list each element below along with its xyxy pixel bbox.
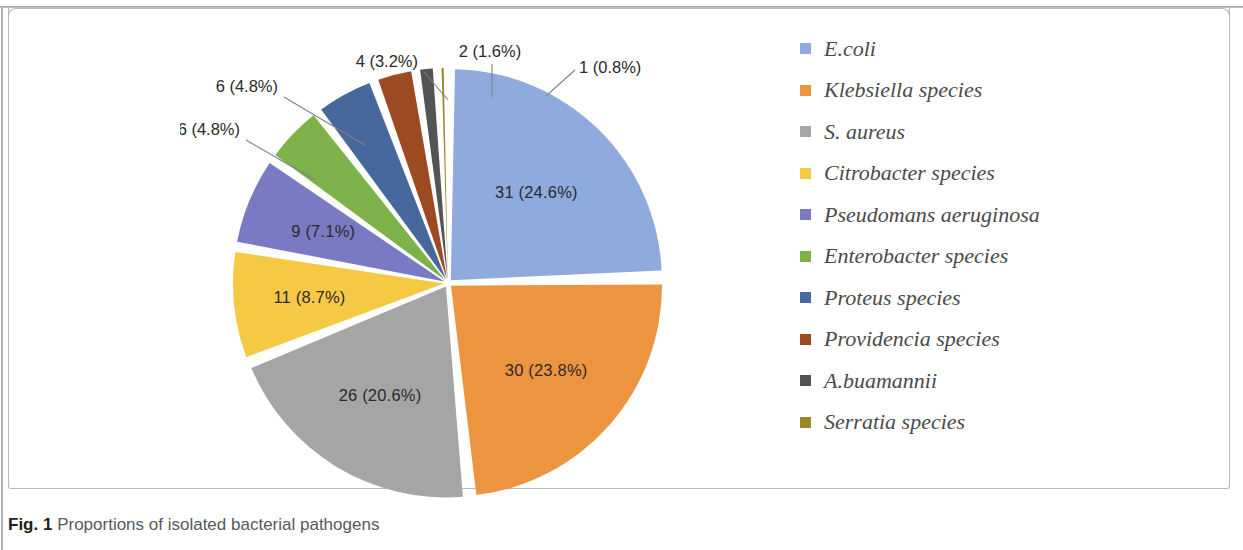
legend-item-label: S. aureus: [824, 121, 905, 143]
pie-callout-label: 1 (0.8%): [579, 58, 641, 76]
legend-item: E.coli: [800, 28, 1200, 70]
pie-slices: [233, 68, 662, 497]
legend-swatch-icon: [800, 168, 811, 179]
figure-number: Fig. 1: [8, 515, 52, 534]
legend-item: Providencia species: [800, 319, 1200, 361]
figure-caption-text: Proportions of isolated bacterial pathog…: [52, 515, 379, 534]
legend-item: Enterobacter species: [800, 236, 1200, 278]
legend-item: S. aureus: [800, 111, 1200, 153]
legend-swatch-icon: [800, 209, 811, 220]
legend-item: Pseudomans aeruginosa: [800, 194, 1200, 236]
legend-item: Citrobacter species: [800, 153, 1200, 195]
pie-callout-label: 4 (3.2%): [356, 52, 418, 70]
legend-swatch-icon: [800, 85, 811, 96]
legend-item-label: Serratia species: [824, 411, 965, 433]
legend-item-label: Enterobacter species: [824, 245, 1008, 267]
legend-item: A.buamannii: [800, 360, 1200, 402]
figure-caption: Fig. 1 Proportions of isolated bacterial…: [8, 515, 379, 535]
legend-item-label: E.coli: [824, 38, 876, 60]
legend-swatch-icon: [800, 375, 811, 386]
pie-slice-label: 11 (8.7%): [273, 288, 345, 306]
legend-swatch-icon: [800, 292, 811, 303]
pie-slice-label: 26 (20.6%): [339, 386, 422, 404]
legend-swatch-icon: [800, 43, 811, 54]
pie-callout-label: 6 (4.8%): [180, 120, 240, 138]
legend-item-label: Klebsiella species: [824, 79, 982, 101]
pie-label-leader-line: [546, 70, 575, 96]
pie-slice: [451, 69, 662, 280]
legend-item-label: Providencia species: [824, 328, 1000, 350]
legend-item-label: Pseudomans aeruginosa: [824, 204, 1040, 226]
pie-slice-label: 30 (23.8%): [505, 361, 588, 379]
chart-legend: E.coliKlebsiella speciesS. aureusCitroba…: [800, 28, 1200, 443]
figure-frame-top-border: [8, 8, 1230, 22]
pie-callout-label: 2 (1.6%): [459, 42, 521, 60]
legend-swatch-icon: [800, 251, 811, 262]
legend-item-label: Proteus species: [824, 287, 961, 309]
left-margin-rule: [1, 6, 3, 550]
pie-callout-label: 6 (4.8%): [216, 77, 278, 95]
pie-slice-label: 9 (7.1%): [291, 222, 355, 240]
legend-item: Klebsiella species: [800, 70, 1200, 112]
pie-slice-label: 31 (24.6%): [495, 183, 578, 201]
pie-slice: [451, 285, 662, 496]
legend-item: Serratia species: [800, 402, 1200, 444]
legend-swatch-icon: [800, 334, 811, 345]
pie-chart-svg: 31 (24.6%)30 (23.8%)26 (20.6%)11 (8.7%)9…: [180, 40, 740, 510]
legend-swatch-icon: [800, 126, 811, 137]
legend-item-label: Citrobacter species: [824, 162, 995, 184]
legend-swatch-icon: [800, 417, 811, 428]
legend-item-label: A.buamannii: [824, 370, 937, 392]
figure-page: 31 (24.6%)30 (23.8%)26 (20.6%)11 (8.7%)9…: [0, 0, 1243, 550]
legend-item: Proteus species: [800, 277, 1200, 319]
pie-chart: 31 (24.6%)30 (23.8%)26 (20.6%)11 (8.7%)9…: [180, 40, 740, 510]
